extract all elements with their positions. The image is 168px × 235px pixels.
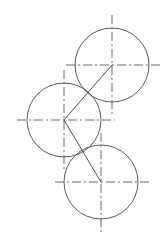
link-left-to-bottom — [64, 120, 101, 182]
center-lines-group — [17, 15, 163, 232]
drawing-svg — [0, 0, 168, 235]
technical-drawing-canvas — [0, 0, 168, 235]
link-left-to-top — [64, 65, 112, 120]
link-lines-group — [64, 65, 112, 182]
circles-group — [27, 28, 149, 219]
